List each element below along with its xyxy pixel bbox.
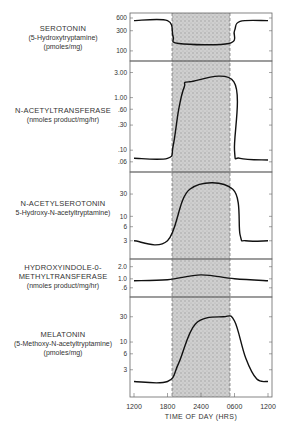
label-nas: N-ACETYLSEROTONIN 5-Hydroxy-N-acetyltryp… <box>0 199 126 217</box>
svg-text:3.00: 3.00 <box>114 69 127 76</box>
label-subtitle: (nmoles product/mg/hr) <box>0 115 126 124</box>
label-title: HYDROXYINDOLE-0- <box>0 263 126 272</box>
label-hiomt: HYDROXYINDOLE-0- METHYLTRANSFERASE (nmol… <box>0 263 126 290</box>
svg-text:1200: 1200 <box>126 403 142 410</box>
label-title: N-ACETYLSEROTONIN <box>0 199 126 208</box>
label-unit: (pmoles/mg) <box>0 42 126 51</box>
svg-text:3: 3 <box>123 237 127 244</box>
label-unit: (nmoles product/mg/hr) <box>0 281 126 290</box>
label-title: MELATONIN <box>0 330 126 339</box>
label-subtitle: (5-Hydroxytryptamine) <box>0 33 126 42</box>
svg-text:3: 3 <box>123 366 127 373</box>
x-axis-title: TIME OF DAY (HRS) <box>130 413 272 420</box>
label-unit: (pmoles/mg) <box>0 348 126 357</box>
label-subtitle: (5-Methoxy-N-acetyltryptamine) <box>0 339 126 348</box>
label-serotonin: SEROTONIN (5-Hydroxytryptamine) (pmoles/… <box>0 24 126 51</box>
svg-text:.10: .10 <box>118 146 127 153</box>
svg-text:.06: .06 <box>118 158 127 165</box>
label-melatonin: MELATONIN (5-Methoxy-N-acetyltryptamine)… <box>0 330 126 357</box>
label-title: SEROTONIN <box>0 24 126 33</box>
label-subtitle: METHYLTRANSFERASE <box>0 272 126 281</box>
label-title: N-ACETYLTRANSFERASE <box>0 106 126 115</box>
svg-text:2400: 2400 <box>193 403 209 410</box>
svg-text:1200: 1200 <box>260 403 276 410</box>
svg-text:30: 30 <box>120 190 128 197</box>
svg-text:6: 6 <box>123 223 127 230</box>
chart-figure: 6003001003.001.00.60.30.10.063010632.01.… <box>0 0 288 435</box>
svg-text:1.00: 1.00 <box>114 94 127 101</box>
x-axis: 12001800240006001200 <box>126 393 276 410</box>
label-nat: N-ACETYLTRANSFERASE (nmoles product/mg/h… <box>0 106 126 124</box>
label-subtitle: 5-Hydroxy-N-acetyltryptamine) <box>0 208 126 217</box>
svg-text:0600: 0600 <box>227 403 243 410</box>
svg-text:30: 30 <box>120 313 128 320</box>
svg-text:600: 600 <box>116 14 127 21</box>
svg-text:1800: 1800 <box>160 403 176 410</box>
